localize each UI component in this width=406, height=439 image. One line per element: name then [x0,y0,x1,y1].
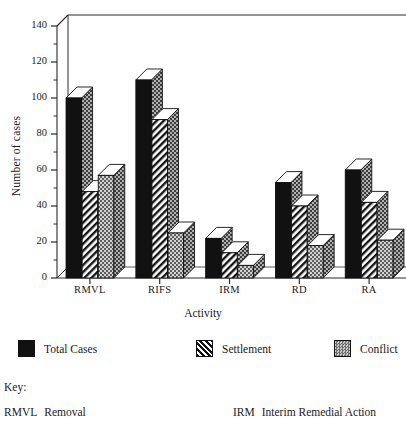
key-entry-rmvl: RMVLRemoval [4,406,86,418]
legend-label: Settlement [222,343,271,355]
key-entry-irm: IRMInterim Remedial Action [233,406,376,418]
y-tick-label: 120 [21,56,47,67]
key-abbr: IRM [233,406,255,418]
chart-figure: Number of cases [0,0,406,439]
legend-label: Conflict [360,343,398,355]
chart-legend: Total CasesSettlementConflict [0,340,406,366]
key-title: Key: [4,381,406,393]
y-tick-label: 0 [21,272,47,283]
x-tick-label-irm: IRM [200,284,260,295]
x-tick-label-ra: RA [339,284,399,295]
bar-rd-conflict [308,235,335,278]
x-tick-label-rmvl: RMVL [60,284,120,295]
bar-rmvl-conflict [98,164,125,278]
y-tick-label: 60 [21,164,47,175]
y-tick-label: 80 [21,128,47,139]
plot-area: Number of cases [0,0,406,300]
key-block: Key: RMVLRemovalIRMInterim Remedial Acti… [4,381,406,426]
y-tick-label: 20 [21,236,47,247]
x-tick-label-rifs: RIFS [130,284,190,295]
legend-item-conflict: Conflict [334,340,398,357]
y-tick-label: 100 [21,92,47,103]
legend-item-settlement: Settlement [196,340,271,357]
y-tick-label: 140 [21,20,47,31]
chart-canvas [0,0,406,300]
legend-item-total-cases: Total Cases [18,340,97,357]
key-text: Removal [44,406,86,418]
legend-label: Total Cases [44,343,97,355]
bar-ra-conflict [377,229,404,278]
key-entries: RMVLRemovalIRMInterim Remedial Action [4,406,406,426]
bar-rifs-conflict [168,222,195,278]
legend-swatch-icon [18,340,35,357]
x-axis-title: Activity [0,307,406,319]
x-tick-label-rd: RD [269,284,329,295]
legend-swatch-icon [334,340,351,357]
key-text: Interim Remedial Action [262,406,376,418]
y-tick-label: 40 [21,200,47,211]
legend-swatch-icon [196,340,213,357]
key-abbr: RMVL [4,406,37,418]
